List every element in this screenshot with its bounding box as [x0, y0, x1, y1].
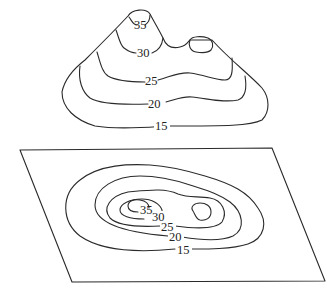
label-15-map: 15: [177, 243, 190, 257]
mountain-3d-view: 35 30 25 20 15: [62, 10, 268, 133]
second-peak-map: [192, 203, 211, 220]
second-peak: [189, 37, 212, 53]
contour-map-plane: 15 20 25 30 35: [20, 148, 325, 282]
contour-diagram: 35 30 25 20 15 15 20 25 30 35: [0, 0, 333, 300]
label-35-top: 35: [134, 18, 147, 32]
mountain-outline-15: [62, 10, 268, 128]
label-20-top: 20: [148, 97, 161, 111]
label-15-top: 15: [155, 119, 168, 133]
label-30-top: 30: [137, 46, 150, 60]
label-35-map: 35: [140, 203, 153, 217]
label-30-map: 30: [152, 210, 165, 224]
label-25-top: 25: [145, 74, 158, 88]
contour-25-top: [97, 52, 232, 82]
